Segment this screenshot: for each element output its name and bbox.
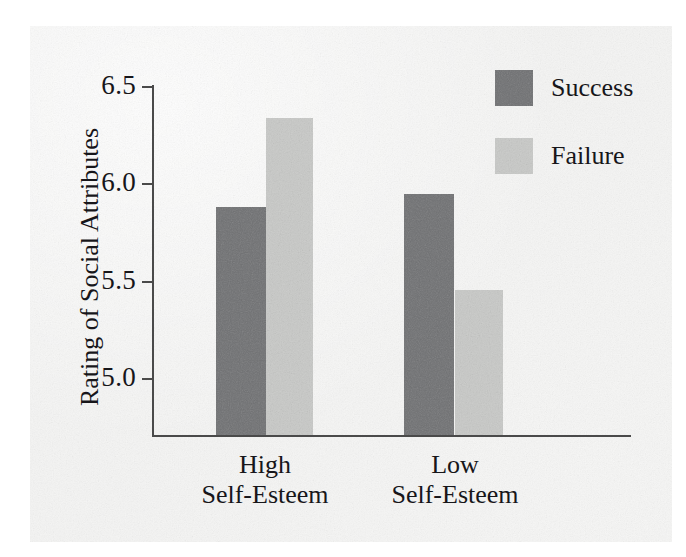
y-axis-tick-5.5 <box>142 281 153 283</box>
y-axis-tick-label-6.0: 6.0 <box>78 169 136 196</box>
legend-label-success: Success <box>551 75 633 101</box>
legend-item-success: Success <box>495 70 675 106</box>
legend-item-failure: Failure <box>495 138 675 174</box>
legend-swatch-success-icon <box>495 70 533 106</box>
x-axis-group-label-high-self-esteem: High Self-Esteem <box>155 450 375 510</box>
y-axis-line <box>152 85 154 437</box>
y-axis-tick-6.0 <box>142 183 153 185</box>
legend-label-failure: Failure <box>551 143 625 169</box>
y-axis-tick-6.5 <box>142 86 153 88</box>
x-axis-group-label-low-line2: Self-Esteem <box>345 480 565 510</box>
figure-root: Rating of Social Attributes 6.5 6.0 5.5 … <box>0 0 686 557</box>
legend-swatch-failure-icon <box>495 138 533 174</box>
bar-low-self-esteem-success <box>404 194 454 435</box>
x-axis-group-label-high-line1: High <box>155 450 375 480</box>
legend: Success Failure <box>495 70 675 206</box>
x-axis-group-label-low-self-esteem: Low Self-Esteem <box>345 450 565 510</box>
y-axis-tick-5.0 <box>142 378 153 380</box>
y-axis-tick-label-6.5: 6.5 <box>78 72 136 99</box>
x-axis-group-label-low-line1: Low <box>345 450 565 480</box>
bar-high-self-esteem-failure <box>266 118 313 435</box>
plot-area: Rating of Social Attributes 6.5 6.0 5.5 … <box>0 0 686 557</box>
y-axis-tick-label-5.0: 5.0 <box>78 364 136 391</box>
bar-low-self-esteem-failure <box>455 290 503 435</box>
bar-high-self-esteem-success <box>216 207 266 435</box>
x-axis-line <box>152 435 631 437</box>
x-axis-group-label-high-line2: Self-Esteem <box>155 480 375 510</box>
y-axis-tick-label-5.5: 5.5 <box>78 267 136 294</box>
